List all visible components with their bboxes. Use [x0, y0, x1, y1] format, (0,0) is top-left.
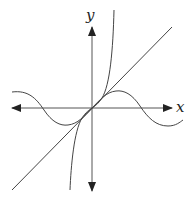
- function-plot: y x: [0, 0, 195, 201]
- x-axis-label: x: [176, 98, 185, 116]
- y-axis-label: y: [85, 6, 95, 24]
